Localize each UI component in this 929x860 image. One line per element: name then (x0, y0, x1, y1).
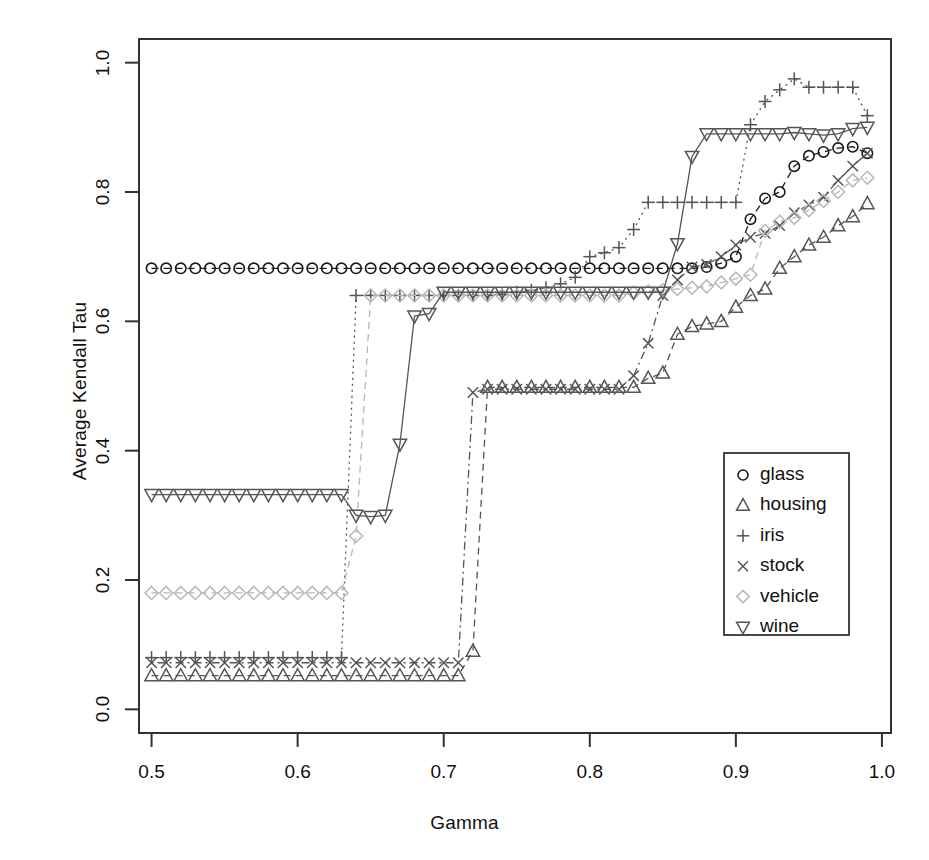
marker-circle (731, 251, 741, 261)
y-tick-label: 0.0 (92, 679, 114, 739)
marker-triangle-down (189, 490, 202, 502)
marker-triangle-up (335, 669, 348, 681)
marker-circle (774, 187, 784, 197)
marker-triangle-up (861, 197, 874, 209)
marker-triangle-up (612, 380, 625, 392)
marker-triangle-down (291, 490, 304, 502)
marker-triangle-up (744, 288, 757, 300)
marker-triangle-down (160, 490, 173, 502)
marker-triangle-up (276, 669, 289, 681)
marker-triangle-down (247, 490, 260, 502)
legend-item-wine[interactable]: wine (760, 615, 799, 637)
marker-triangle-up (364, 669, 377, 681)
marker-triangle-up (203, 669, 216, 681)
marker-triangle-up (306, 669, 319, 681)
marker-triangle-up (715, 314, 728, 326)
marker-triangle-up (758, 282, 771, 294)
x-tick-label: 0.9 (706, 761, 766, 783)
plot-canvas (0, 0, 929, 860)
x-tick-label: 0.8 (560, 761, 620, 783)
marker-triangle-up (598, 380, 611, 392)
marker-triangle-up (788, 250, 801, 262)
marker-triangle-down (203, 490, 216, 502)
marker-triangle-up (729, 300, 742, 312)
marker-triangle-down (364, 512, 377, 524)
marker-triangle-up (408, 669, 421, 681)
marker-triangle-down (276, 490, 289, 502)
y-tick-label: 0.6 (92, 291, 114, 351)
marker-triangle-up (495, 380, 508, 392)
marker-triangle-up (539, 380, 552, 392)
marker-triangle-up (247, 669, 260, 681)
marker-triangle-up (554, 380, 567, 392)
y-tick-label: 1.0 (92, 33, 114, 93)
x-tick-label: 0.5 (122, 761, 182, 783)
marker-triangle-up (671, 327, 684, 339)
marker-triangle-up (218, 669, 231, 681)
marker-triangle-down (306, 490, 319, 502)
marker-triangle-down (817, 130, 830, 142)
marker-triangle-up (569, 380, 582, 392)
marker-triangle-up (189, 669, 202, 681)
marker-triangle-up (233, 669, 246, 681)
marker-triangle-down (145, 490, 158, 502)
marker-triangle-up (422, 669, 435, 681)
marker-triangle-up (656, 366, 669, 378)
marker-triangle-up (174, 669, 187, 681)
marker-triangle-up (160, 669, 173, 681)
marker-triangle-down (262, 490, 275, 502)
marker-triangle-down (218, 490, 231, 502)
marker-triangle-up (817, 230, 830, 242)
marker-triangle-up (583, 380, 596, 392)
marker-triangle-up (510, 380, 523, 392)
series-line-glass (152, 147, 868, 269)
marker-triangle-down (729, 129, 742, 141)
marker-triangle-up (379, 669, 392, 681)
x-tick-label: 0.6 (268, 761, 328, 783)
legend-item-stock[interactable]: stock (760, 554, 804, 576)
y-tick-label: 0.2 (92, 550, 114, 610)
marker-triangle-down (758, 129, 771, 141)
marker-triangle-up (846, 210, 859, 222)
marker-triangle-up (627, 380, 640, 392)
marker-circle (804, 151, 814, 161)
y-tick-label: 0.8 (92, 162, 114, 222)
legend-item-glass[interactable]: glass (760, 463, 804, 485)
x-axis-title: Gamma (0, 812, 929, 834)
marker-triangle-up (773, 261, 786, 273)
marker-triangle-down (233, 490, 246, 502)
marker-triangle-down (773, 129, 786, 141)
marker-triangle-up (525, 380, 538, 392)
series-glass (146, 142, 872, 274)
y-axis-title: Average Kendall Tau (69, 251, 91, 531)
legend-item-housing[interactable]: housing (760, 493, 827, 515)
marker-triangle-down (174, 490, 187, 502)
marker-triangle-up (437, 669, 450, 681)
marker-triangle-up (452, 669, 465, 681)
marker-diamond (846, 174, 859, 187)
legend-item-iris[interactable]: iris (760, 524, 784, 546)
legend-item-vehicle[interactable]: vehicle (760, 585, 819, 607)
marker-triangle-up (291, 669, 304, 681)
marker-triangle-up (349, 669, 362, 681)
marker-triangle-down (715, 129, 728, 141)
marker-triangle-up (393, 669, 406, 681)
x-tick-label: 1.0 (852, 761, 912, 783)
x-tick-label: 0.7 (414, 761, 474, 783)
marker-diamond (744, 268, 757, 281)
marker-triangle-up (262, 669, 275, 681)
marker-triangle-up (320, 669, 333, 681)
marker-circle (818, 147, 828, 157)
chart-figure: Gamma Average Kendall Tau 0.50.60.70.80.… (0, 0, 929, 860)
marker-triangle-up (145, 669, 158, 681)
marker-triangle-down (320, 490, 333, 502)
y-tick-label: 0.4 (92, 421, 114, 481)
